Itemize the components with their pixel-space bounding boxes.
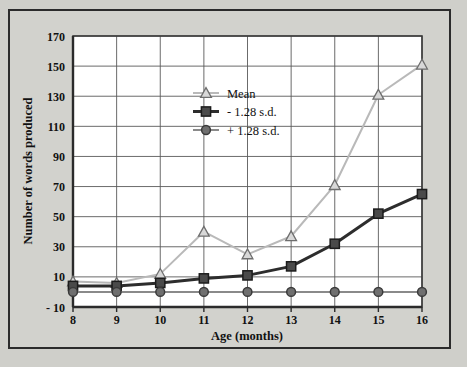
marker-circle — [199, 288, 208, 297]
x-tick-label: 8 — [70, 313, 76, 327]
y-tick-label: 150 — [47, 60, 65, 74]
marker-circle — [243, 288, 252, 297]
y-tick-label: 50 — [53, 210, 65, 224]
marker-square — [243, 271, 252, 280]
marker-circle — [330, 288, 339, 297]
y-tick-label: 90 — [53, 150, 65, 164]
x-tick-label: 10 — [154, 313, 166, 327]
marker-square — [199, 274, 208, 283]
legend-label: + 1.28 s.d. — [227, 124, 280, 138]
y-tick-label: 130 — [47, 90, 65, 104]
x-tick-label: 15 — [372, 313, 384, 327]
marker-square — [156, 278, 165, 287]
x-tick-label: 13 — [285, 313, 297, 327]
y-axis-title: Number of words produced — [21, 97, 35, 244]
y-tick-label: 110 — [48, 120, 65, 134]
marker-circle — [287, 288, 296, 297]
figure-container: - 101030507090110130150170 8910111213141… — [0, 0, 467, 367]
marker-circle — [202, 126, 211, 135]
x-tick-label: 12 — [242, 313, 254, 327]
marker-circle — [112, 288, 121, 297]
marker-circle — [156, 288, 165, 297]
legend-label: Mean — [227, 87, 256, 101]
marker-square — [374, 209, 383, 218]
y-tick-label: 10 — [53, 270, 65, 284]
marker-circle — [374, 288, 383, 297]
marker-square — [417, 189, 426, 198]
marker-circle — [418, 288, 427, 297]
x-tick-label: 11 — [198, 313, 209, 327]
x-tick-label: 16 — [416, 313, 428, 327]
marker-square — [201, 107, 210, 116]
x-tick-labels: 8910111213141516 — [70, 313, 428, 327]
legend-label: - 1.28 s.d. — [227, 105, 277, 119]
marker-square — [287, 262, 296, 271]
y-tick-label: 170 — [47, 30, 65, 44]
line-chart: - 101030507090110130150170 8910111213141… — [10, 11, 449, 347]
marker-circle — [69, 288, 78, 297]
y-tick-label: 30 — [53, 240, 65, 254]
x-tick-label: 9 — [114, 313, 120, 327]
y-tick-label: - 10 — [46, 301, 65, 315]
y-tick-labels: - 101030507090110130150170 — [46, 30, 65, 315]
x-axis-title: Age (months) — [211, 329, 283, 343]
y-tick-label: 70 — [53, 180, 65, 194]
figure-plate: - 101030507090110130150170 8910111213141… — [8, 9, 451, 349]
marker-square — [330, 239, 339, 248]
x-tick-label: 14 — [329, 313, 341, 327]
